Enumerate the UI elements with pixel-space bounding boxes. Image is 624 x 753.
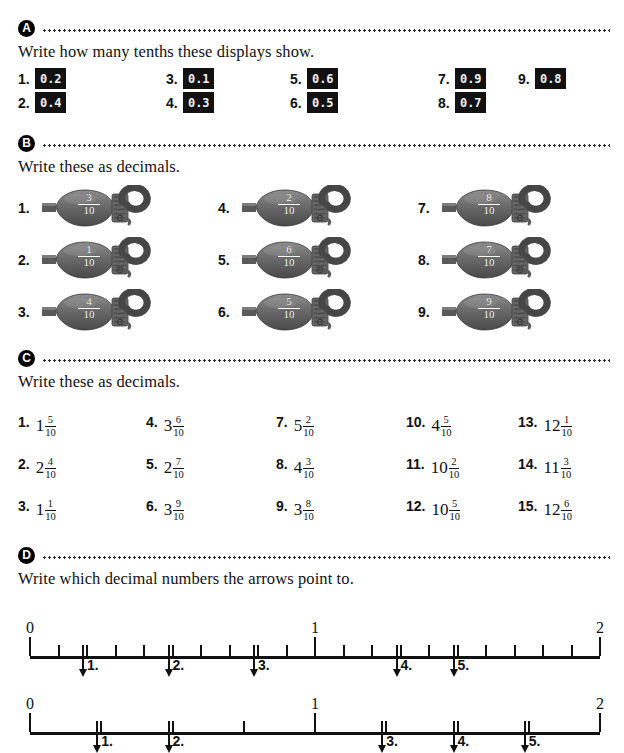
number-line-graphic: 0121.2.3.4.5. bbox=[18, 677, 610, 735]
fraction-on-padlock: 410 bbox=[76, 296, 102, 320]
section-c-item: 6.3910 bbox=[146, 498, 184, 522]
mixed-number: 10210 bbox=[431, 456, 460, 480]
lcd-value: 0.3 bbox=[188, 96, 210, 109]
fraction-on-padlock: 310 bbox=[76, 192, 102, 216]
fraction-denominator: 10 bbox=[561, 511, 572, 522]
arrow-shaft bbox=[168, 645, 170, 671]
lcd-value: 0.1 bbox=[188, 72, 210, 85]
fraction-denominator: 10 bbox=[45, 469, 56, 480]
fraction-numerator: 3 bbox=[561, 456, 572, 467]
section-b-item: 2.110 bbox=[18, 237, 152, 283]
tick-major bbox=[314, 637, 316, 656]
arrow-label: 5. bbox=[529, 733, 541, 749]
fraction-denominator: 10 bbox=[173, 511, 184, 522]
padlock-icon: 510 bbox=[240, 289, 352, 335]
lcd-value: 0.4 bbox=[40, 96, 62, 109]
section-b-item: 7.810 bbox=[418, 185, 552, 231]
arrow-shaft bbox=[396, 645, 398, 671]
fraction-part: 610 bbox=[561, 498, 572, 522]
section-a: A Write how many tenths these displays s… bbox=[18, 18, 610, 116]
padlock-icon: 910 bbox=[440, 289, 552, 335]
tick-major bbox=[599, 637, 601, 656]
section-c-item: 13.12110 bbox=[518, 414, 572, 438]
whole-part: 12 bbox=[543, 500, 560, 520]
fraction-numerator: 8 bbox=[476, 192, 502, 203]
fraction-numerator: 7 bbox=[476, 244, 502, 255]
whole-part: 10 bbox=[431, 500, 448, 520]
tick-minor bbox=[172, 645, 174, 656]
fraction-part: 610 bbox=[173, 414, 184, 438]
fraction-numerator: 4 bbox=[45, 456, 56, 467]
fraction-denominator: 10 bbox=[303, 427, 314, 438]
fraction-denominator: 10 bbox=[476, 309, 502, 320]
section-a-header: A bbox=[18, 18, 610, 38]
section-b-item: 4.210 bbox=[218, 185, 352, 231]
whole-part: 2 bbox=[36, 458, 45, 478]
arrow-shaft bbox=[453, 721, 455, 747]
fraction-numerator: 6 bbox=[276, 244, 302, 255]
fraction-numerator: 3 bbox=[76, 192, 102, 203]
fraction-numerator: 1 bbox=[45, 498, 56, 509]
padlock-icon: 210 bbox=[240, 185, 352, 231]
arrow-shaft bbox=[253, 645, 255, 671]
lcd-value: 0.8 bbox=[540, 72, 562, 85]
question-number: 2. bbox=[18, 252, 40, 268]
section-c-badge: C bbox=[18, 350, 35, 367]
question-number: 3. bbox=[18, 498, 30, 514]
fraction-part: 710 bbox=[173, 456, 184, 480]
tick-minor bbox=[143, 645, 145, 656]
fraction-numerator: 5 bbox=[45, 414, 56, 425]
section-a-item: 1.0.2 bbox=[18, 68, 66, 89]
number-line-label: 1 bbox=[311, 695, 319, 713]
fraction-part: 510 bbox=[449, 498, 460, 522]
question-number: 4. bbox=[146, 414, 158, 430]
mixed-number: 3810 bbox=[294, 498, 314, 522]
padlock-icon: 110 bbox=[40, 237, 152, 283]
fraction-denominator: 10 bbox=[561, 427, 572, 438]
fraction-on-padlock: 110 bbox=[76, 244, 102, 268]
section-d: D Write which decimal numbers the arrows… bbox=[18, 545, 610, 735]
tick-minor bbox=[229, 645, 231, 656]
arrow-shaft bbox=[453, 645, 455, 671]
section-a-item: 2.0.4 bbox=[18, 92, 66, 113]
section-c-item: 10.4510 bbox=[406, 414, 451, 438]
whole-part: 2 bbox=[164, 458, 173, 478]
question-number: 5. bbox=[218, 252, 240, 268]
section-a-dotted-rule bbox=[42, 29, 610, 32]
arrow-head-icon bbox=[393, 669, 401, 677]
fraction-denominator: 10 bbox=[45, 427, 56, 438]
mixed-number: 12610 bbox=[543, 498, 572, 522]
section-b: B Write these as decimals. 1.3102.1103.4… bbox=[18, 133, 610, 340]
tick-major bbox=[599, 713, 601, 732]
number-line: 0121.2.3.4.5. bbox=[18, 601, 610, 659]
question-number: 7. bbox=[438, 71, 450, 87]
lcd-value: 0.7 bbox=[460, 96, 482, 109]
whole-part: 11 bbox=[543, 458, 559, 478]
lcd-display: 0.7 bbox=[455, 92, 486, 113]
fraction-part: 210 bbox=[303, 414, 314, 438]
lcd-value: 0.5 bbox=[312, 96, 334, 109]
tick-minor bbox=[172, 721, 174, 732]
padlock-icon: 610 bbox=[240, 237, 352, 283]
fraction-numerator: 5 bbox=[441, 414, 452, 425]
fraction-numerator: 9 bbox=[476, 296, 502, 307]
fraction-denominator: 10 bbox=[449, 511, 460, 522]
padlock-icon: 310 bbox=[40, 185, 152, 231]
section-a-item: 6.0.5 bbox=[290, 92, 338, 113]
tick-minor bbox=[343, 645, 345, 656]
fraction-denominator: 10 bbox=[76, 257, 102, 268]
fraction-denominator: 10 bbox=[45, 511, 56, 522]
lcd-display: 0.4 bbox=[35, 92, 66, 113]
section-c-header: C bbox=[18, 348, 610, 368]
whole-part: 5 bbox=[294, 416, 303, 436]
section-b-dotted-rule bbox=[42, 144, 610, 147]
whole-part: 4 bbox=[431, 416, 440, 436]
question-number: 9. bbox=[518, 71, 530, 87]
arrow-head-icon bbox=[250, 669, 258, 677]
question-number: 6. bbox=[290, 95, 302, 111]
fraction-part: 110 bbox=[45, 498, 56, 522]
mixed-number: 12110 bbox=[543, 414, 572, 438]
question-number: 10. bbox=[406, 414, 425, 430]
arrow-head-icon bbox=[378, 745, 386, 753]
section-c-item: 3.1110 bbox=[18, 498, 56, 522]
